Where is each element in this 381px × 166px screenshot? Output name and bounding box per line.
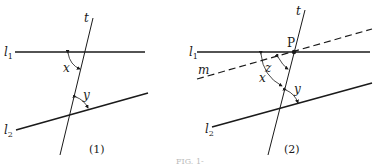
line-t	[60, 18, 93, 155]
label-angle-x: x	[259, 71, 266, 85]
label-t: t	[296, 4, 301, 18]
label-l1: l1	[4, 45, 13, 61]
label-l2: l2	[205, 122, 214, 138]
line-l2	[16, 93, 148, 130]
angle-x-arc	[68, 53, 80, 69]
label-l1: l1	[189, 45, 198, 61]
panel-2: l1 m P z x y l2 t (2)	[189, 4, 372, 156]
label-angle-x: x	[63, 61, 70, 75]
label-angle-y: y	[293, 82, 301, 96]
label-angle-y: y	[82, 88, 90, 102]
line-m	[197, 29, 372, 79]
label-t: t	[84, 11, 89, 25]
label-m: m	[198, 63, 209, 77]
line-l2	[212, 83, 372, 127]
label-P: P	[287, 36, 295, 50]
figure-caption: FIG. 1-	[176, 157, 204, 166]
panel-1: l1 l2 t x y (1)	[4, 11, 148, 156]
parallel-lines-diagram: l1 l2 t x y (1) l1 m P z x y l2 t (2) FI…	[0, 0, 381, 166]
caption-1: (1)	[89, 143, 105, 156]
label-l2: l2	[4, 123, 13, 139]
angle-z-arc	[278, 57, 288, 69]
point-P	[292, 50, 296, 54]
caption-2: (2)	[284, 143, 300, 156]
